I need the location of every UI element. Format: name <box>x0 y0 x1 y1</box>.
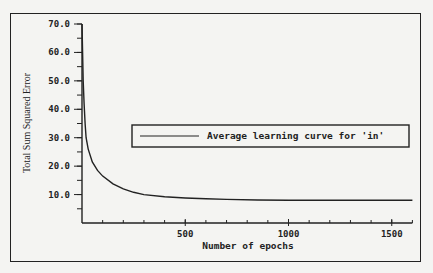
legend: Average learning curve for 'in' <box>132 125 409 147</box>
y-tick-label: 60.0 <box>48 47 70 57</box>
x-tick-label: 500 <box>177 229 193 239</box>
legend-label: Average learning curve for 'in' <box>207 130 384 141</box>
y-tick-label: 70.0 <box>48 19 70 29</box>
axes <box>82 24 412 223</box>
y-tick-label: 20.0 <box>48 161 70 171</box>
y-tick-label: 30.0 <box>48 133 70 143</box>
y-tick-label: 40.0 <box>48 104 70 114</box>
y-axis-label: Total Sum Squared Error <box>21 72 32 173</box>
learning-curve-line <box>82 24 412 200</box>
x-axis-label: Number of epochs <box>202 240 294 251</box>
y-axis-ticks: 10.020.030.040.050.060.070.0 <box>48 19 82 209</box>
x-tick-label: 1500 <box>381 229 403 239</box>
line-chart: 10.020.030.040.050.060.070.0 50010001500… <box>0 0 433 273</box>
y-tick-label: 50.0 <box>48 76 70 86</box>
x-tick-label: 1000 <box>278 229 300 239</box>
x-axis-ticks: 50010001500 <box>103 219 413 239</box>
y-tick-label: 10.0 <box>48 190 70 200</box>
